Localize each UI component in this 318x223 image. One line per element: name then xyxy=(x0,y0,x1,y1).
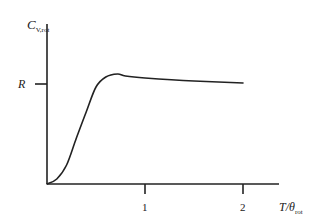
y-axis-label: CV,rot xyxy=(27,18,49,34)
y-axis-label-sub: V,rot xyxy=(36,26,50,34)
x-tick-label-1: 1 xyxy=(142,202,148,213)
x-axis-label-main: T/θ xyxy=(279,200,295,214)
y-axis-label-main: C xyxy=(27,17,36,32)
cv-rot-curve xyxy=(47,74,243,184)
y-tick-label-r: R xyxy=(18,78,25,90)
axis-ticks xyxy=(35,84,243,194)
x-axis-label: T/θrot xyxy=(279,201,303,216)
x-tick-label-2: 2 xyxy=(240,202,246,213)
x-axis-label-sub: rot xyxy=(295,208,303,216)
